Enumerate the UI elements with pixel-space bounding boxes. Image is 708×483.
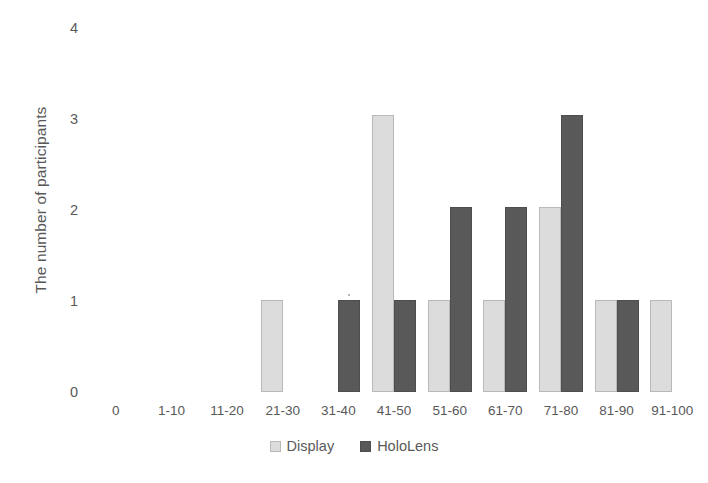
x-tick-label-1-10: 1-10 (144, 400, 200, 422)
legend-entry-display[interactable]: Display (270, 438, 335, 454)
legend-swatch-display-icon (270, 441, 281, 452)
bar-display-41-50[interactable] (372, 115, 394, 393)
y-axis-title: The number of participants (28, 0, 54, 400)
bar-group-91-100 (644, 22, 700, 392)
bar-hololens-81-90[interactable] (617, 300, 639, 393)
x-axis-tick-labels: 01-1011-2021-3031-4041-5051-6061-7071-80… (88, 400, 700, 422)
bar-hololens-61-70[interactable] (505, 207, 527, 392)
bar-group-71-80 (533, 22, 589, 392)
bar-group-51-60 (422, 22, 478, 392)
bar-hololens-71-80[interactable] (561, 115, 583, 393)
x-tick-label-81-90: 81-90 (589, 400, 645, 422)
bar-group-21-30 (255, 22, 311, 392)
legend-entry-hololens[interactable]: HoloLens (360, 438, 438, 454)
bar-display-61-70[interactable] (483, 300, 505, 393)
x-tick-label-21-30: 21-30 (255, 400, 311, 422)
chart-legend: Display HoloLens (0, 438, 708, 454)
legend-label-display: Display (287, 438, 335, 454)
scan-artifact-speck (348, 294, 350, 296)
bar-group-81-90 (589, 22, 645, 392)
bar-groups (88, 22, 700, 392)
x-tick-label-51-60: 51-60 (422, 400, 478, 422)
y-axis-tick-labels: 4 3 2 1 0 (52, 0, 78, 483)
bar-group-41-50 (366, 22, 422, 392)
bar-group-1-10 (144, 22, 200, 392)
y-tick-label-4: 4 (52, 20, 78, 36)
x-tick-label-11-20: 11-20 (199, 400, 255, 422)
y-tick-label-1: 1 (52, 293, 78, 309)
bar-chart: The number of participants 4 3 2 1 0 01-… (0, 0, 708, 483)
legend-label-hololens: HoloLens (377, 438, 438, 454)
bar-display-51-60[interactable] (428, 300, 450, 393)
x-tick-label-0: 0 (88, 400, 144, 422)
bar-hololens-41-50[interactable] (394, 300, 416, 393)
bar-display-91-100[interactable] (650, 300, 672, 393)
x-tick-label-41-50: 41-50 (366, 400, 422, 422)
bar-group-61-70 (477, 22, 533, 392)
x-tick-label-31-40: 31-40 (311, 400, 367, 422)
bar-group-0 (88, 22, 144, 392)
bar-display-71-80[interactable] (539, 207, 561, 392)
bar-display-21-30[interactable] (261, 300, 283, 393)
plot-area (88, 22, 700, 396)
x-tick-label-91-100: 91-100 (644, 400, 700, 422)
x-tick-label-71-80: 71-80 (533, 400, 589, 422)
bar-group-31-40 (311, 22, 367, 392)
bar-display-81-90[interactable] (595, 300, 617, 393)
bar-hololens-31-40[interactable] (338, 300, 360, 393)
bar-group-11-20 (199, 22, 255, 392)
bar-hololens-51-60[interactable] (450, 207, 472, 392)
legend-swatch-hololens-icon (360, 441, 371, 452)
x-tick-label-61-70: 61-70 (477, 400, 533, 422)
y-tick-label-0: 0 (52, 384, 78, 400)
y-tick-label-2: 2 (52, 202, 78, 218)
y-tick-label-3: 3 (52, 111, 78, 127)
